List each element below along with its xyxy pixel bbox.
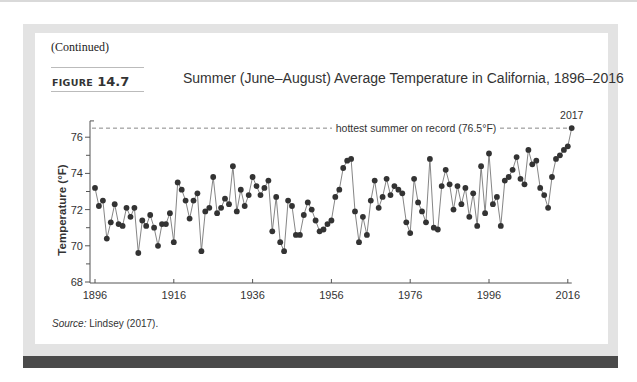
data-point <box>372 178 378 184</box>
x-tick-label: 1996 <box>477 289 501 301</box>
data-point <box>380 194 386 200</box>
y-tick-label: 70 <box>71 240 83 252</box>
data-point <box>112 201 118 207</box>
data-point <box>226 201 232 207</box>
data-point <box>175 180 181 186</box>
data-point <box>455 183 461 189</box>
data-point <box>498 223 504 229</box>
data-point <box>195 190 201 196</box>
data-point <box>313 218 319 224</box>
data-point <box>262 185 268 191</box>
data-point <box>356 239 362 245</box>
data-point <box>478 163 484 169</box>
data-point <box>466 214 472 220</box>
data-point <box>258 192 264 198</box>
x-tick-label: 1956 <box>319 289 343 301</box>
data-point <box>403 219 409 225</box>
data-point <box>191 198 197 204</box>
data-point <box>419 209 425 215</box>
data-point <box>565 143 571 149</box>
data-point <box>218 205 224 211</box>
source-note: Source: Lindsey (2017). <box>52 318 158 329</box>
record-annotation-text: hottest summer on record (76.5°F) <box>336 122 497 134</box>
data-point <box>569 125 575 131</box>
data-point <box>384 176 390 182</box>
data-point <box>399 190 405 196</box>
data-point <box>281 248 287 254</box>
data-point <box>266 178 272 184</box>
data-point <box>332 194 338 200</box>
data-point <box>297 232 303 238</box>
data-point <box>183 198 189 204</box>
data-point <box>474 223 480 229</box>
data-point <box>340 165 346 171</box>
data-point <box>518 176 524 182</box>
x-tick-label: 1936 <box>240 289 264 301</box>
x-tick-label: 1896 <box>83 289 107 301</box>
record-year-label: 2017 <box>560 109 584 121</box>
data-point <box>199 248 205 254</box>
data-point <box>108 219 114 225</box>
data-point <box>415 200 421 206</box>
data-point <box>92 185 98 191</box>
data-point <box>179 187 185 193</box>
data-point <box>463 185 469 191</box>
data-point <box>557 152 563 158</box>
data-point <box>435 227 441 233</box>
data-point <box>147 212 153 218</box>
data-point <box>151 225 157 231</box>
data-point <box>427 156 433 162</box>
data-point <box>167 210 173 216</box>
source-label: Source: <box>52 318 86 329</box>
y-tick-label: 76 <box>71 131 83 143</box>
data-point <box>100 198 106 204</box>
data-point <box>277 239 283 245</box>
data-point <box>104 236 110 242</box>
data-point <box>439 183 445 189</box>
data-point <box>443 167 449 173</box>
data-point <box>514 154 520 160</box>
temperature-line <box>95 128 572 253</box>
data-point <box>238 187 244 193</box>
data-point <box>128 214 134 220</box>
data-point <box>96 203 102 209</box>
data-point <box>305 200 311 206</box>
data-point <box>163 221 169 227</box>
data-series <box>92 125 574 256</box>
data-point <box>482 210 488 216</box>
data-point <box>222 196 228 202</box>
data-point <box>549 174 555 180</box>
data-point <box>368 198 374 204</box>
x-tick-label: 1976 <box>398 289 422 301</box>
y-tick-label: 72 <box>71 204 83 216</box>
data-point <box>526 147 532 153</box>
data-point <box>360 214 366 220</box>
data-point <box>348 156 354 162</box>
data-point <box>494 194 500 200</box>
data-point <box>364 232 370 238</box>
data-point <box>388 192 394 198</box>
data-point <box>135 250 141 256</box>
data-point <box>423 219 429 225</box>
data-point <box>411 176 417 182</box>
data-point <box>242 203 248 209</box>
y-tick-label: 74 <box>71 167 83 179</box>
data-point <box>309 207 315 213</box>
data-point <box>329 218 335 224</box>
data-point <box>510 167 516 173</box>
data-point <box>459 201 465 207</box>
data-point <box>143 223 149 229</box>
x-tick-label: 1916 <box>162 289 186 301</box>
data-point <box>132 205 138 211</box>
data-point <box>537 185 543 191</box>
data-point <box>171 239 177 245</box>
data-point <box>230 163 236 169</box>
data-point <box>447 181 453 187</box>
record-annotation: hottest summer on record (76.5°F)2017 <box>92 109 584 134</box>
data-point <box>273 194 279 200</box>
data-point <box>541 192 547 198</box>
x-tick-label: 2016 <box>556 289 580 301</box>
data-point <box>376 205 382 211</box>
data-point <box>533 158 539 164</box>
data-point <box>451 207 457 213</box>
